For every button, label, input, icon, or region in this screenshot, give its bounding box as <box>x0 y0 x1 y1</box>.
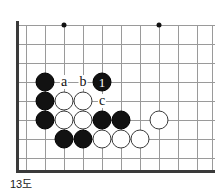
stone-black[interactable] <box>55 130 74 149</box>
star-point <box>62 23 67 28</box>
board-edge-left <box>16 21 19 171</box>
stone-black[interactable] <box>74 130 93 149</box>
numbered-stone-black[interactable]: 1 <box>93 73 112 92</box>
stone-white[interactable] <box>93 130 112 149</box>
grid-line-vertical <box>26 25 27 170</box>
stone-white[interactable] <box>74 111 93 130</box>
grid-line-vertical <box>159 25 160 170</box>
grid-line-vertical <box>197 25 198 170</box>
stone-white[interactable] <box>112 130 131 149</box>
stone-white[interactable] <box>55 92 74 111</box>
stone-black[interactable] <box>93 111 112 130</box>
stone-black[interactable] <box>112 111 131 130</box>
point-marker-a: a <box>60 75 68 89</box>
stone-white[interactable] <box>74 92 93 111</box>
stone-move-number: 1 <box>94 74 111 91</box>
board-edge-bottom <box>16 170 215 173</box>
stone-white[interactable] <box>55 111 74 130</box>
grid-line-vertical <box>178 25 179 170</box>
stone-black[interactable] <box>36 73 55 92</box>
grid-line-vertical <box>212 25 213 170</box>
stone-black[interactable] <box>36 92 55 111</box>
point-marker-c: c <box>98 94 106 108</box>
stone-black[interactable] <box>36 111 55 130</box>
figure-caption: 13도 <box>10 175 32 191</box>
star-point <box>157 23 162 28</box>
stone-white[interactable] <box>131 130 150 149</box>
stone-white[interactable] <box>150 111 169 130</box>
go-diagram-figure: 1 abc 13도 <box>0 0 215 193</box>
go-board: 1 abc <box>0 0 215 175</box>
point-marker-b: b <box>79 75 88 89</box>
